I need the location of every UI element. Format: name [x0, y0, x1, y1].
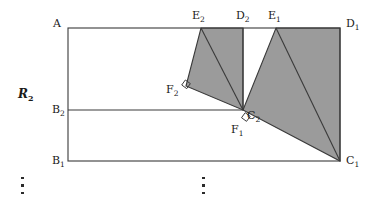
vertex-label-b2: B2	[52, 104, 65, 115]
ellipsis-dot	[202, 192, 204, 194]
vertex-label-b1: B1	[52, 155, 65, 166]
ellipsis-dot	[21, 184, 23, 186]
vertex-label-e1: E1	[268, 10, 281, 21]
geometry-figure: R2 A E2 D2 E1 D1 F2 B2 C2 F1 B1 C1	[0, 0, 373, 200]
ellipsis-center	[202, 177, 205, 194]
ellipsis-dot	[21, 177, 23, 179]
vertex-label-d1: D1	[346, 18, 360, 29]
vertex-label-a: A	[53, 18, 61, 29]
ellipsis-dot	[202, 184, 204, 186]
vertex-d1-base: D	[346, 17, 355, 30]
vertex-b2-base: B	[52, 103, 60, 116]
vertex-b1-sub: 1	[60, 160, 65, 169]
vertex-f1-base: F	[231, 123, 239, 136]
vertex-label-f1: F1	[231, 124, 243, 135]
vertex-d2-base: D	[236, 9, 245, 22]
vertex-d1-sub: 1	[355, 23, 360, 32]
geometry-canvas	[0, 0, 373, 200]
vertex-label-c1: C1	[346, 155, 359, 166]
vertex-d2-sub: 2	[245, 15, 250, 24]
vertex-e1-sub: 1	[276, 15, 281, 24]
vertex-c2-sub: 2	[255, 115, 260, 124]
vertex-e1-base: E	[268, 9, 276, 22]
vertex-c1-sub: 1	[354, 160, 359, 169]
vertex-e2-sub: 2	[200, 15, 205, 24]
vertex-b1-base: B	[52, 154, 60, 167]
vertex-label-f2: F2	[166, 84, 178, 95]
vertex-f1-sub: 1	[239, 129, 244, 138]
vertex-f2-sub: 2	[174, 89, 179, 98]
vertex-e2-base: E	[192, 9, 200, 22]
vertex-a-base: A	[53, 17, 61, 30]
vertex-label-c2: C2	[247, 110, 260, 121]
region-label-base: R	[18, 87, 28, 101]
region-label-sub: 2	[28, 93, 34, 103]
region-label-r2: R2	[18, 88, 34, 100]
ellipsis-left	[21, 177, 24, 194]
left-shaded-region	[186, 28, 243, 110]
vertex-f2-base: F	[166, 83, 174, 96]
vertex-b2-sub: 2	[60, 109, 65, 118]
ellipsis-dot	[21, 192, 23, 194]
right-shaded-region	[243, 28, 340, 161]
ellipsis-dot	[202, 177, 204, 179]
vertex-label-e2: E2	[192, 10, 205, 21]
vertex-label-d2: D2	[236, 10, 250, 21]
